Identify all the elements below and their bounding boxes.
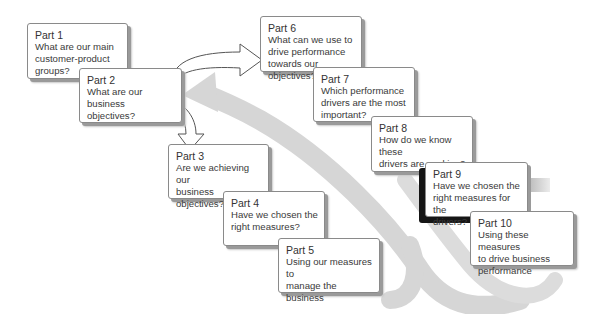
part-title: Part 8 bbox=[379, 122, 466, 134]
part-question-line: What are our main bbox=[35, 41, 121, 53]
part-question-line: Using our measures to bbox=[286, 256, 373, 280]
part-title: Part 4 bbox=[231, 197, 318, 209]
curved-arrow-right-icon bbox=[172, 44, 262, 88]
part-question-line: customer-product bbox=[35, 53, 121, 65]
part-question-line: Are we achieving our bbox=[176, 162, 262, 186]
part-7-box: Part 7 Which performance drivers are the… bbox=[313, 67, 415, 122]
part-question-line: drive performance bbox=[268, 46, 355, 58]
part-title: Part 10 bbox=[478, 217, 567, 229]
part-title: Part 5 bbox=[286, 244, 373, 256]
part-10-box: Part 10 Using these measures to drive bu… bbox=[470, 211, 574, 266]
part-title: Part 7 bbox=[321, 73, 408, 85]
part-title: Part 1 bbox=[35, 29, 121, 41]
part-2-box: Part 2 What are our business objectives? bbox=[79, 68, 182, 123]
process-diagram: Part 1 What are our main customer-produc… bbox=[0, 0, 609, 314]
part-question-line: drivers are the most bbox=[321, 97, 408, 109]
part-5-box: Part 5 Using our measures to manage the … bbox=[278, 238, 380, 293]
part-title: Part 6 bbox=[268, 22, 355, 34]
part-question-line: right measures? bbox=[231, 221, 318, 233]
part-question-line: Using these measures bbox=[478, 229, 567, 253]
part-question-line: What are our business bbox=[87, 86, 175, 110]
part-question-line: performance bbox=[478, 265, 567, 277]
part-title: Part 2 bbox=[87, 74, 175, 86]
part-question-line: manage the business bbox=[286, 280, 373, 304]
part-question-line: Have we chosen the bbox=[231, 209, 318, 221]
part-title: Part 3 bbox=[176, 150, 262, 162]
part-title: Part 9 bbox=[433, 168, 521, 180]
part-question-line: How do we know these bbox=[379, 134, 466, 158]
part-6-box: Part 6 What can we use to drive performa… bbox=[260, 16, 362, 72]
part-question-line: objectives? bbox=[87, 110, 175, 122]
part-question-line: Have we chosen the bbox=[433, 180, 521, 192]
part-question-line: What can we use to bbox=[268, 34, 355, 46]
part-9-box: Part 9 Have we chosen the right measures… bbox=[425, 162, 528, 217]
part-question-line: to drive business bbox=[478, 253, 567, 265]
part-question-line: Which performance bbox=[321, 85, 408, 97]
